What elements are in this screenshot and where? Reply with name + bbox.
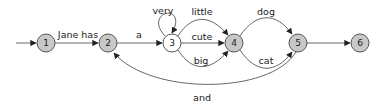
label-cute: cute (192, 31, 213, 42)
node-2: 2 (99, 34, 117, 52)
node-3: 3 (163, 34, 181, 52)
node-1-label: 1 (43, 38, 49, 48)
edge-3-3-loop (159, 13, 176, 36)
label-jane-has: Jane has (57, 29, 98, 40)
label-and: and (193, 92, 211, 103)
state-diagram: Jane has a very little cute big dog cat … (0, 0, 385, 108)
node-5-label: 5 (295, 38, 301, 48)
edge-labels: Jane has a very little cute big dog cat … (57, 5, 275, 103)
label-big: big (194, 55, 209, 66)
node-1: 1 (37, 34, 55, 52)
edge-4-5-dog (240, 18, 292, 36)
node-6: 6 (351, 34, 369, 52)
node-4: 4 (225, 34, 243, 52)
node-5: 5 (289, 34, 307, 52)
label-little: little (191, 6, 212, 17)
label-dog: dog (257, 6, 275, 17)
node-6-label: 6 (357, 38, 363, 48)
node-2-label: 2 (105, 38, 111, 48)
label-cat: cat (259, 55, 274, 66)
label-a: a (136, 29, 142, 40)
label-very: very (153, 5, 174, 16)
node-3-label: 3 (169, 38, 175, 48)
node-4-label: 4 (231, 38, 237, 48)
